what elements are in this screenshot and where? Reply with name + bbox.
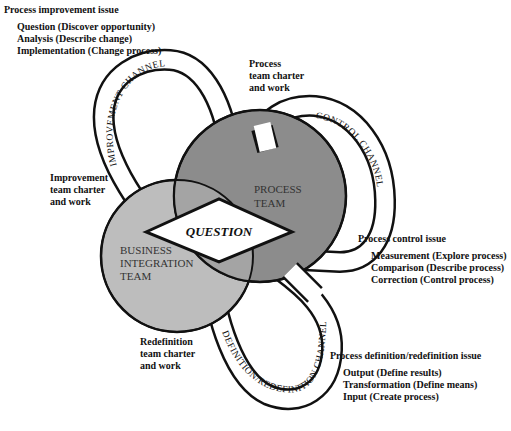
issue-title: Process control issue [358,233,507,245]
process-definition-issue: Process definition/redefinition issue Ou… [330,350,481,403]
issue-item: Implementation (Change process) [17,45,161,57]
issue-item: Transformation (Define means) [343,379,481,391]
issue-item: Comparison (Describe process) [371,262,507,274]
issue-item: Output (Define results) [343,367,481,379]
issue-title: Process definition/redefinition issue [330,350,481,362]
issue-item: Correction (Control process) [371,274,507,286]
issue-title: Process improvement issue [4,4,161,16]
improvement-team-charter: Improvement team charter and work [50,172,108,208]
definition-channel-label: DEFINITION/REDEFINITION CHANNEL [220,321,328,395]
issue-item: Analysis (Describe change) [17,33,161,45]
question-label: QUESTION [186,224,253,239]
issue-item: Input (Create process) [343,391,481,403]
process-team-charter: Process team charter and work [249,58,304,94]
redefinition-team-charter: Redefinition team charter and work [140,336,195,372]
process-improvement-issue: Process improvement issue Question (Disc… [4,4,161,57]
issue-item: Measurement (Explore process) [371,250,507,262]
issue-item: Question (Discover opportunity) [17,21,161,33]
process-control-issue: Process control issue Measurement (Explo… [358,233,507,286]
